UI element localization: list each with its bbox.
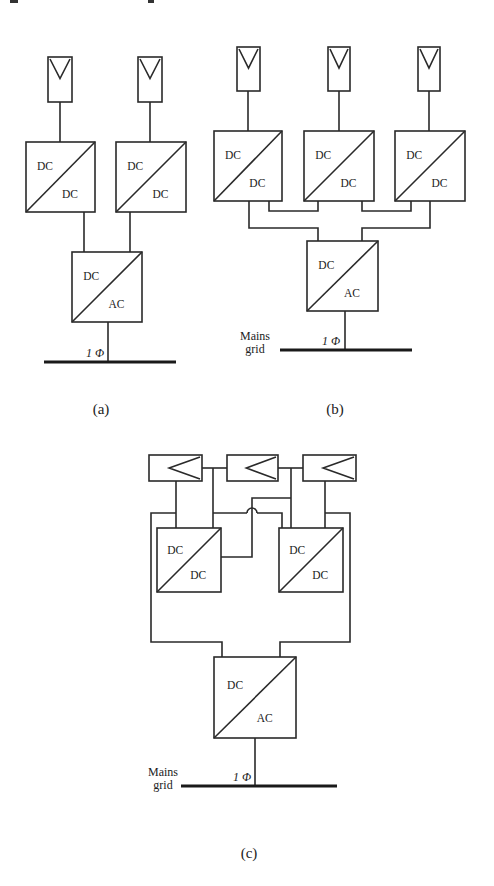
mains-label: Mains <box>240 329 270 343</box>
single-phase-label: 1 Φ <box>86 346 104 360</box>
converter-output-label: AC <box>108 298 124 310</box>
wire <box>362 201 430 241</box>
grid-label: grid <box>153 778 172 792</box>
dcdc-converter-box: DCDC <box>304 131 374 201</box>
panel-caption: (c) <box>241 845 258 862</box>
converter-input-label: DC <box>167 544 183 556</box>
pv-module-icon <box>303 455 356 481</box>
converter-input-label: DC <box>37 160 53 172</box>
pv-module-icon <box>149 455 202 481</box>
dcac-inverter-box: DCAC <box>307 241 378 311</box>
single-phase-label: 1 Φ <box>322 334 340 348</box>
converter-input-label: DC <box>227 679 243 691</box>
pv-module-icon <box>328 47 350 91</box>
scan-artifact <box>148 0 154 3</box>
dcdc-converter-box: DCDC <box>26 142 95 212</box>
panel-a-two-module-dcdc: DCDCDCDCDCAC1 Φ(a) <box>26 57 186 418</box>
converter-output-label: DC <box>312 569 328 581</box>
dcdc-converter-box: DCDC <box>116 142 186 212</box>
scan-marks <box>10 0 154 3</box>
converter-input-label: DC <box>406 149 422 161</box>
pv-module-icon <box>418 47 440 91</box>
converter-input-label: DC <box>315 149 331 161</box>
dcdc-converter-box: DCDC <box>157 528 221 592</box>
wire <box>249 201 318 241</box>
wire <box>257 513 282 528</box>
mains-label: Mains <box>148 765 178 779</box>
converter-input-label: DC <box>289 544 305 556</box>
dcdc-converter-box: DCDC <box>395 131 465 201</box>
panel-caption: (b) <box>326 401 344 418</box>
converter-input-label: DC <box>318 259 334 271</box>
dcac-inverter-box: DCAC <box>214 657 296 738</box>
panel-c-cross-connected-dcdc: DCDCDCDCDCAC1 ΦMainsgrid(c) <box>148 455 356 862</box>
converter-output-label: DC <box>152 188 168 200</box>
converter-input-label: DC <box>83 270 99 282</box>
wire <box>362 201 411 211</box>
converter-output-label: AC <box>344 287 360 299</box>
converter-output-label: DC <box>340 177 356 189</box>
wire <box>269 201 318 211</box>
converter-output-label: DC <box>431 177 447 189</box>
converter-output-label: AC <box>257 712 273 724</box>
dcac-inverter-box: DCAC <box>72 252 142 322</box>
pv-module-icon <box>227 455 278 481</box>
grid-label: grid <box>245 342 264 356</box>
pv-module-icon <box>138 57 162 102</box>
pv-architecture-figure: DCDCDCDCDCAC1 Φ(a) DCDCDCDCDCDCDCAC1 ΦMa… <box>0 0 494 886</box>
pv-module-icon <box>48 57 72 102</box>
converter-output-label: DC <box>62 188 78 200</box>
pv-module-icon <box>237 47 260 91</box>
converter-output-label: DC <box>249 177 265 189</box>
converter-input-label: DC <box>225 149 241 161</box>
dcdc-converter-box: DCDC <box>214 131 282 201</box>
dcdc-converter-box: DCDC <box>279 528 343 592</box>
scan-artifact <box>10 0 18 3</box>
panel-caption: (a) <box>93 401 110 418</box>
panel-b-three-module-dcdc: DCDCDCDCDCDCDCAC1 ΦMainsgrid(b) <box>214 47 465 418</box>
converter-input-label: DC <box>127 160 143 172</box>
converter-output-label: DC <box>190 569 206 581</box>
single-phase-label: 1 Φ <box>233 770 251 784</box>
